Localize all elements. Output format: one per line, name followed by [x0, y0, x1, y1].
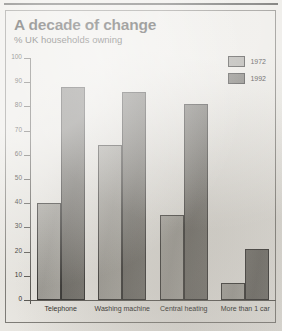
chart-title: A decade of change	[14, 16, 156, 34]
y-tick-label-40: 40	[15, 198, 22, 205]
bar-1972-central-heating	[160, 215, 184, 300]
y-tick-70: 70	[24, 131, 31, 132]
chart-figure: A decade of change % UK households ownin…	[0, 0, 282, 331]
y-tick-label-10: 10	[15, 271, 22, 278]
legend-swatch-1972-icon	[228, 56, 245, 67]
y-tick-label-90: 90	[15, 77, 22, 84]
category-label-telephone: Telephone	[30, 305, 92, 312]
y-tick-50: 50	[24, 179, 31, 180]
bar-1992-more-than-1-car	[245, 249, 269, 300]
legend-label-1992: 1992	[250, 75, 266, 82]
y-tick-60: 60	[24, 155, 31, 156]
y-tick-30: 30	[24, 227, 31, 228]
y-tick-label-60: 60	[15, 150, 22, 157]
bar-1992-central-heating	[184, 104, 208, 300]
y-tick-100: 100	[24, 58, 31, 59]
legend-label-1972: 1972	[250, 58, 266, 65]
legend-item-1972: 1972	[228, 56, 266, 67]
y-tick-90: 90	[24, 82, 31, 83]
y-tick-label-50: 50	[15, 174, 22, 181]
category-label-washing-machine: Washing machine	[92, 305, 154, 312]
legend-swatch-1992-icon	[228, 73, 245, 84]
chart-subtitle: % UK households owning	[14, 34, 122, 45]
chart-legend: 1972 1992	[228, 56, 266, 90]
x-axis-baseline	[26, 300, 276, 301]
bar-1972-telephone	[37, 203, 61, 300]
y-tick-40: 40	[24, 203, 31, 204]
y-tick-label-70: 70	[15, 126, 22, 133]
y-tick-label-20: 20	[15, 247, 22, 254]
y-tick-20: 20	[24, 252, 31, 253]
bar-1972-washing-machine	[98, 145, 122, 300]
y-tick-label-80: 80	[15, 101, 22, 108]
y-tick-label-100: 100	[11, 53, 22, 60]
category-label-more-than-1-car: More than 1 car	[215, 305, 277, 312]
top-rule-divider	[4, 3, 278, 5]
y-tick-label-0: 0	[18, 295, 22, 302]
legend-item-1992: 1992	[228, 73, 266, 84]
bar-1992-washing-machine	[122, 92, 146, 300]
y-tick-10: 10	[24, 276, 31, 277]
plot-area	[30, 58, 276, 300]
category-label-central-heating: Central heating	[153, 305, 215, 312]
y-tick-80: 80	[24, 106, 31, 107]
bar-1992-telephone	[61, 87, 85, 300]
y-tick-label-30: 30	[15, 222, 22, 229]
y-tick-0: 0	[24, 300, 31, 301]
bar-1972-more-than-1-car	[221, 283, 245, 300]
